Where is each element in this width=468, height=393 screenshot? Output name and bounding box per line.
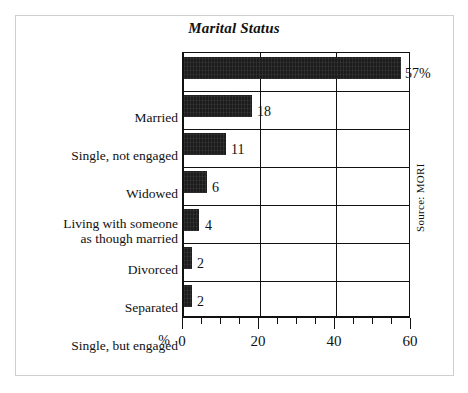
- y-axis-category-labels: Married Single, not engaged Widowed Livi…: [0, 52, 178, 318]
- source-note: Source: MORI: [414, 163, 426, 232]
- x-axis-tick-labels: 0 20 40 60: [0, 333, 468, 357]
- bar-value-married: 57%: [405, 67, 431, 81]
- x-tick-label-40: 40: [327, 333, 342, 350]
- bar-living-with-someone: [184, 171, 207, 193]
- y-axis-label-divorced: Divorced: [3, 262, 178, 277]
- tick-minor-45: [353, 318, 354, 324]
- plot-area: 57% 18 11 6 4 2 2: [182, 52, 410, 318]
- tick-minor-15: [239, 318, 240, 324]
- x-tick-label-60: 60: [403, 333, 418, 350]
- bar-value-divorced: 4: [205, 219, 212, 233]
- gridline-vertical-20: [260, 53, 261, 316]
- bar-value-widowed: 11: [231, 143, 244, 157]
- y-axis-label-single-not-engaged: Single, not engaged: [3, 148, 178, 163]
- tick-minor-25: [277, 318, 278, 324]
- y-axis-label-living-with-someone: Living with someone as though married: [3, 216, 178, 246]
- tick-major-60: [410, 318, 411, 329]
- x-axis-ticks: [182, 318, 412, 330]
- gridline-horizontal: [184, 243, 409, 244]
- tick-major-0: [182, 318, 183, 329]
- y-axis-label-separated: Separated: [3, 300, 178, 315]
- tick-major-40: [334, 318, 335, 329]
- bar-single-not-engaged: [184, 95, 252, 117]
- y-axis-label-married: Married: [3, 110, 178, 125]
- gridline-horizontal: [184, 167, 409, 168]
- tick-minor-55: [391, 318, 392, 324]
- y-axis-label-widowed: Widowed: [3, 186, 178, 201]
- page-title: Marital Status: [0, 20, 468, 37]
- tick-minor-35: [315, 318, 316, 324]
- bar-value-single-not-engaged: 18: [257, 105, 271, 119]
- gridline-horizontal: [184, 281, 409, 282]
- bar-divorced: [184, 209, 199, 231]
- tick-minor-30: [296, 318, 297, 324]
- tick-major-20: [258, 318, 259, 329]
- bar-single-but-engaged: [184, 285, 192, 307]
- x-tick-label-20: 20: [251, 333, 266, 350]
- gridline-vertical-40: [336, 53, 337, 316]
- figure-canvas: Marital Status Married Single, not engag…: [0, 0, 468, 393]
- bar-value-living-with-someone: 6: [212, 181, 219, 195]
- gridline-horizontal: [184, 205, 409, 206]
- tick-minor-10: [220, 318, 221, 324]
- bar-widowed: [184, 133, 226, 155]
- bar-married: [184, 57, 401, 79]
- bar-value-single-but-engaged: 2: [197, 295, 204, 309]
- tick-minor-50: [372, 318, 373, 324]
- bar-value-separated: 2: [197, 257, 204, 271]
- tick-minor-5: [201, 318, 202, 324]
- x-tick-label-0: 0: [178, 333, 186, 350]
- gridline-horizontal: [184, 91, 409, 92]
- gridline-horizontal: [184, 129, 409, 130]
- bar-separated: [184, 247, 192, 269]
